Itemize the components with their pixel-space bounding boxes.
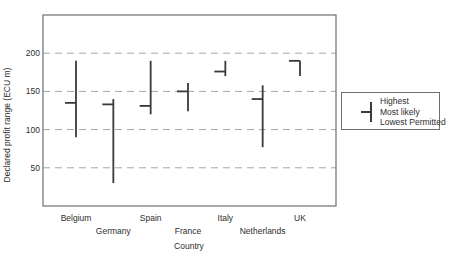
legend-entry-lowest-permitted: Lowest Permitted: [380, 117, 446, 128]
profit-range-chart: 50100150200BelgiumGermanySpainFranceItal…: [0, 0, 455, 265]
x-category-label-france: France: [175, 226, 202, 236]
x-category-label-belgium: Belgium: [61, 213, 92, 223]
legend-entry-most-likely: Most likely: [380, 107, 446, 118]
plot-border: [43, 15, 336, 206]
range-marker-icon: [352, 102, 372, 122]
x-category-label-italy: Italy: [218, 213, 234, 223]
legend-most-likely-tick: [361, 111, 371, 113]
x-category-label-uk: UK: [294, 213, 306, 223]
x-category-label-netherlands: Netherlands: [240, 226, 286, 236]
legend-labels: Highest Most likely Lowest Permitted: [380, 96, 446, 128]
chart-figure: 50100150200BelgiumGermanySpainFranceItal…: [0, 0, 455, 265]
y-tick-label-150: 150: [26, 86, 40, 96]
legend-box: Highest Most likely Lowest Permitted: [341, 92, 440, 130]
legend-entry-highest: Highest: [380, 96, 446, 107]
x-category-label-germany: Germany: [96, 226, 132, 236]
y-axis-title: Declared profit range (ECU m): [2, 48, 16, 203]
y-tick-label-200: 200: [26, 48, 40, 58]
y-tick-label-100: 100: [26, 125, 40, 135]
x-axis-title: Country: [160, 241, 218, 251]
x-category-label-spain: Spain: [140, 213, 162, 223]
y-tick-label-50: 50: [31, 163, 41, 173]
